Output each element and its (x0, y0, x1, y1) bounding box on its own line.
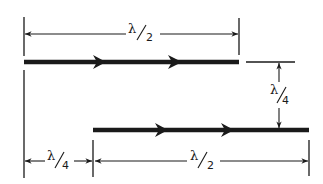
label-denominator: 4 (62, 159, 69, 172)
label-denominator: 2 (146, 31, 153, 44)
label-denominator: 4 (282, 94, 289, 107)
wavelength-diagram: λ 2 λ 4 λ 4 λ 2 (0, 0, 323, 184)
label-numerator: λ (270, 82, 278, 97)
label-numerator: λ (47, 148, 55, 163)
upper-conductor (24, 55, 239, 69)
label-numerator: λ (190, 148, 198, 163)
label-horizontal-offset: λ 4 (47, 148, 69, 172)
label-vertical-spacing: λ 4 (270, 82, 289, 107)
lower-conductor (93, 123, 309, 137)
label-upper-length: λ 2 (128, 21, 153, 44)
label-denominator: 2 (207, 159, 214, 172)
extension-lines (24, 17, 309, 178)
label-numerator: λ (128, 21, 136, 36)
label-lower-length: λ 2 (190, 148, 214, 172)
